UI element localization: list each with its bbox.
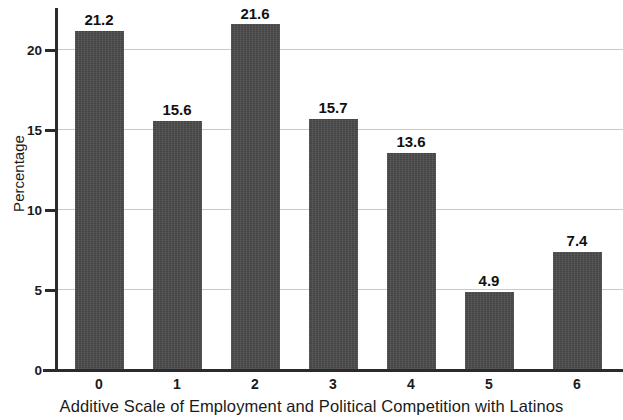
x-tick-label-4: 4 [381,377,441,391]
x-tick-label-6: 6 [547,377,607,391]
y-tick-mark-20 [45,49,57,52]
bar-value-label-3: 15.7 [298,100,368,115]
y-tick-mark-5 [45,289,57,292]
bar-category-1 [153,121,202,372]
bar-value-label-2: 21.6 [220,6,290,21]
x-tick-label-2: 2 [225,377,285,391]
bar-chart: 0 5 10 15 20 21.2 15.6 21.6 15.7 13.6 4.… [0,0,623,420]
x-tick-label-1: 1 [147,377,207,391]
bar-category-4 [387,153,436,371]
y-axis-title: Percentage [10,84,27,264]
y-tick-mark-0 [45,369,57,372]
x-tick-label-5: 5 [459,377,519,391]
y-tick-mark-10 [45,209,57,212]
bar-value-label-1: 15.6 [142,102,212,117]
y-tick-label-0: 0 [0,364,42,378]
bar-category-2 [231,24,280,371]
bar-category-5 [465,292,514,371]
bar-value-label-6: 7.4 [542,233,612,248]
y-axis-line [55,8,58,372]
x-axis-line [43,369,623,372]
y-tick-label-20: 20 [0,44,42,58]
y-tick-label-5: 5 [0,284,42,298]
x-tick-label-0: 0 [69,377,129,391]
x-axis-title: Additive Scale of Employment and Politic… [0,397,623,416]
gridline-20 [57,49,623,50]
plot-area [57,0,623,371]
bar-category-6 [553,252,602,371]
bar-category-0 [75,31,124,372]
bar-category-3 [309,119,358,371]
bar-value-label-5: 4.9 [454,273,524,288]
bar-value-label-4: 13.6 [376,134,446,149]
y-tick-mark-15 [45,129,57,132]
x-tick-label-3: 3 [303,377,363,391]
bar-value-label-0: 21.2 [64,12,134,27]
